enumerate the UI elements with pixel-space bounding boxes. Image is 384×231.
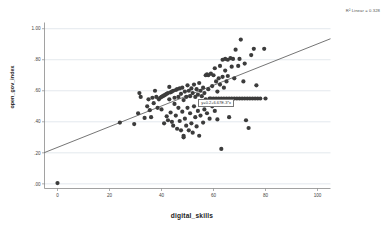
data-point: [195, 87, 199, 91]
data-point: [180, 110, 184, 114]
data-point: [146, 97, 150, 101]
data-point: [185, 83, 189, 87]
data-point: [153, 89, 157, 93]
data-point: [201, 86, 205, 90]
data-point: [188, 111, 192, 115]
x-tick-label: 60: [211, 193, 217, 198]
x-tick-label: 0: [56, 193, 59, 198]
regression-equation-label: y=0.2+6.67E-3*x: [198, 99, 234, 107]
data-point: [206, 87, 210, 91]
data-point: [219, 147, 223, 151]
data-point: [226, 74, 230, 78]
data-point: [196, 109, 200, 113]
y-tick-label: .80: [34, 57, 41, 62]
data-point: [218, 82, 222, 86]
data-point: [165, 114, 169, 118]
data-point: [172, 102, 176, 106]
data-point: [241, 79, 245, 83]
data-point: [162, 121, 166, 125]
data-point: [191, 91, 195, 95]
data-point: [210, 84, 214, 88]
data-point: [174, 113, 178, 117]
axes-group: [45, 23, 331, 189]
data-point: [243, 62, 247, 66]
data-point: [132, 122, 136, 126]
data-point: [185, 106, 189, 110]
data-point: [182, 135, 186, 139]
data-point: [179, 128, 183, 132]
data-point: [239, 37, 243, 41]
data-point: [215, 117, 219, 121]
data-point: [217, 76, 221, 80]
data-point: [192, 104, 196, 108]
data-point: [179, 92, 183, 96]
data-point: [55, 181, 59, 185]
data-point: [236, 64, 240, 68]
data-point: [262, 47, 266, 51]
data-point: [254, 83, 258, 87]
data-point: [263, 96, 267, 100]
x-tick-label: 20: [107, 193, 113, 198]
data-point: [202, 91, 206, 95]
data-point: [148, 108, 152, 112]
data-point: [232, 76, 236, 80]
data-point: [152, 101, 156, 105]
y-tick-label: .00: [34, 182, 41, 187]
data-point: [183, 89, 187, 93]
data-point: [137, 91, 141, 95]
data-point: [196, 93, 200, 97]
y-tick-label: .60: [34, 88, 41, 93]
data-point: [198, 113, 202, 117]
data-point: [171, 124, 175, 128]
plot-canvas: 020406080100 1.00.80.60.40.20.00: [0, 0, 384, 231]
data-point: [183, 117, 187, 121]
data-point: [227, 115, 231, 119]
data-point: [230, 65, 234, 69]
data-point: [150, 96, 154, 100]
data-point: [167, 85, 171, 89]
data-point: [118, 120, 122, 124]
data-point: [184, 124, 188, 128]
data-point: [156, 106, 160, 110]
xtick-labels-group: 020406080100: [56, 189, 322, 199]
data-point: [189, 121, 193, 125]
y-tick-label: .20: [34, 151, 41, 156]
data-point: [176, 106, 180, 110]
data-point: [166, 118, 170, 122]
data-point: [170, 120, 174, 124]
data-point: [189, 86, 193, 90]
data-point: [205, 111, 209, 115]
r2-annotation: R² Linear = 0.328: [346, 8, 380, 13]
x-tick-label: 80: [263, 193, 269, 198]
data-point: [136, 111, 140, 115]
data-point: [258, 96, 262, 100]
data-point: [224, 79, 228, 83]
data-point: [234, 48, 238, 52]
data-point: [247, 126, 251, 130]
data-point: [237, 57, 241, 61]
data-point: [149, 115, 153, 119]
ytick-labels-group: 1.00.80.60.40.20.00: [32, 26, 45, 186]
data-point: [172, 96, 176, 100]
x-tick-label: 100: [314, 193, 322, 198]
data-point: [193, 115, 197, 119]
data-point: [223, 68, 227, 72]
data-point: [145, 104, 149, 108]
data-point: [178, 119, 182, 123]
data-point: [197, 81, 201, 85]
data-point: [175, 127, 179, 131]
data-point: [197, 134, 201, 138]
data-point: [201, 120, 205, 124]
data-point: [195, 124, 199, 128]
data-point: [222, 86, 226, 90]
r2-annotation-text: R² Linear = 0.328: [346, 8, 380, 13]
data-point: [213, 66, 217, 70]
data-point: [184, 95, 188, 99]
y-axis-title: open_gov_index: [9, 42, 15, 132]
data-point: [143, 116, 147, 120]
regression-equation-text: y=0.2+6.67E-3*x: [201, 100, 231, 105]
data-point: [215, 89, 219, 93]
data-point: [231, 57, 235, 61]
data-point: [218, 64, 222, 68]
data-point: [252, 47, 256, 51]
